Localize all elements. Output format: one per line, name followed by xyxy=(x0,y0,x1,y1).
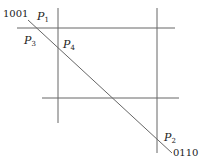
point-p2-label: P2 xyxy=(163,131,176,145)
code-end-label: 0110 xyxy=(173,147,198,158)
point-p1-label: P1 xyxy=(36,10,49,24)
code-start-label: 1001 xyxy=(3,8,28,19)
diagram-svg: 1001 0110 P1 P3 P4 P2 xyxy=(0,0,201,164)
diagram-canvas: 1001 0110 P1 P3 P4 P2 xyxy=(0,0,201,164)
diagonal-line xyxy=(28,20,172,153)
point-p4-label: P4 xyxy=(62,38,75,52)
point-p3-label: P3 xyxy=(23,34,36,48)
